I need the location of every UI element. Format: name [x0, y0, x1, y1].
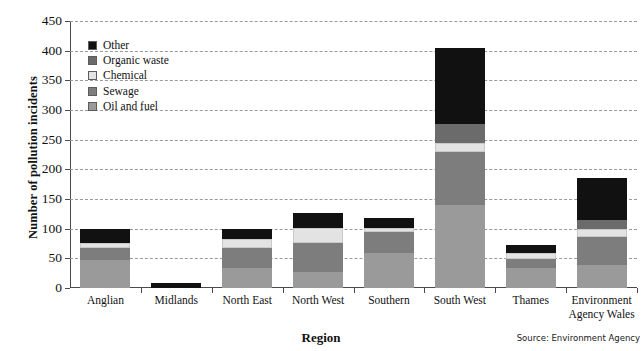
bar-segment[interactable] — [364, 253, 414, 288]
bar-segment[interactable] — [293, 213, 343, 228]
legend-swatch-icon — [88, 56, 97, 65]
x-tick-mark — [354, 288, 355, 293]
y-tick-label: 400 — [0, 44, 62, 58]
x-tick-mark — [424, 288, 425, 293]
y-axis-tick-labels: 450400350300250200150100500 — [0, 21, 62, 288]
bar-segment[interactable] — [80, 248, 130, 260]
y-tick-label: 200 — [0, 163, 62, 177]
x-tick-label: South West — [424, 294, 495, 308]
bar-segment[interactable] — [293, 243, 343, 272]
x-tick-label: North West — [283, 294, 354, 308]
bar-segment[interactable] — [435, 48, 485, 124]
legend-item-label: Other — [103, 40, 129, 51]
pollution-incidents-chart: Number of pollution incidents 4504003503… — [0, 0, 642, 351]
bar-segment[interactable] — [577, 237, 627, 265]
bar-segment[interactable] — [364, 218, 414, 228]
bar-segment[interactable] — [222, 229, 272, 239]
legend-swatch-icon — [88, 87, 97, 96]
legend-item[interactable]: Other — [88, 40, 169, 51]
bar-segment[interactable] — [151, 283, 201, 288]
source-note: Source: Environment Agency — [517, 333, 640, 343]
bar-segment[interactable] — [506, 268, 556, 288]
y-tick-label: 300 — [0, 103, 62, 117]
bar-stack[interactable] — [293, 213, 343, 288]
bar-stack[interactable] — [506, 245, 556, 288]
x-tick-mark — [212, 288, 213, 293]
y-tick-label: 450 — [0, 14, 62, 28]
x-tick-label: North East — [212, 294, 283, 308]
legend: OtherOrganic wasteChemicalSewageOil and … — [88, 40, 169, 112]
bar-segment[interactable] — [293, 228, 343, 243]
y-tick-label: 350 — [0, 74, 62, 88]
bar-stack[interactable] — [222, 229, 272, 288]
x-tick-mark — [495, 288, 496, 293]
bar-segment[interactable] — [435, 143, 485, 152]
bar-segment[interactable] — [577, 265, 627, 288]
x-tick-label: Anglian — [70, 294, 141, 308]
bar-segment[interactable] — [506, 245, 556, 253]
bar-stack[interactable] — [435, 48, 485, 288]
bar-segment[interactable] — [577, 229, 627, 237]
y-tick-label: 100 — [0, 222, 62, 236]
bar-stack[interactable] — [577, 178, 627, 288]
legend-swatch-icon — [88, 102, 97, 111]
x-axis-tick-labels: AnglianMidlandsNorth EastNorth WestSouth… — [70, 294, 637, 334]
bar-segment[interactable] — [506, 259, 556, 268]
bar-segment[interactable] — [435, 124, 485, 144]
bar-segment[interactable] — [293, 272, 343, 288]
y-tick-mark — [65, 288, 70, 289]
bar-segment[interactable] — [222, 248, 272, 268]
y-tick-label: 150 — [0, 192, 62, 206]
legend-swatch-icon — [88, 71, 97, 80]
bar-segment[interactable] — [222, 239, 272, 248]
bar-stack[interactable] — [80, 229, 130, 288]
bar-segment[interactable] — [435, 152, 485, 205]
bar-stack[interactable] — [364, 218, 414, 288]
bar-segment[interactable] — [364, 232, 414, 253]
y-tick-label: 250 — [0, 133, 62, 147]
legend-item-label: Chemical — [103, 70, 147, 81]
legend-item-label: Sewage — [103, 86, 139, 97]
bar-segment[interactable] — [577, 220, 627, 229]
x-tick-mark — [637, 288, 638, 293]
bar-stack[interactable] — [151, 283, 201, 288]
y-tick-label: 0 — [0, 281, 62, 295]
x-tick-label: Southern — [354, 294, 425, 308]
legend-item-label: Oil and fuel — [103, 101, 158, 112]
bar-segment[interactable] — [577, 178, 627, 220]
legend-item[interactable]: Sewage — [88, 86, 169, 97]
x-tick-mark — [283, 288, 284, 293]
x-tick-label: Midlands — [141, 294, 212, 308]
x-tick-label: Environment Agency Wales — [566, 294, 637, 321]
x-tick-mark — [566, 288, 567, 293]
x-tick-label: Thames — [495, 294, 566, 308]
bar-segment[interactable] — [80, 229, 130, 243]
x-tick-mark — [141, 288, 142, 293]
bar-segment[interactable] — [435, 205, 485, 288]
legend-item-label: Organic waste — [103, 55, 169, 66]
y-tick-label: 50 — [0, 252, 62, 266]
legend-swatch-icon — [88, 41, 97, 50]
legend-item[interactable]: Oil and fuel — [88, 101, 169, 112]
legend-item[interactable]: Chemical — [88, 70, 169, 81]
bar-segment[interactable] — [80, 260, 130, 288]
bar-segment[interactable] — [222, 268, 272, 288]
legend-item[interactable]: Organic waste — [88, 55, 169, 66]
